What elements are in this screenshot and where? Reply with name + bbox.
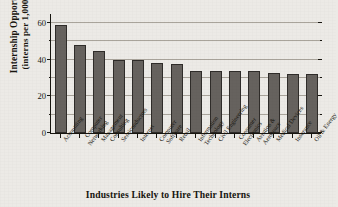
category-label-line: Internet (139, 123, 156, 142)
x-axis-title: Industries Likely to Hire Their Interns (0, 189, 336, 200)
category-label-line: Insurance (294, 120, 313, 143)
category-label: Internet (139, 123, 156, 142)
category-label: Oil & Energy (313, 112, 338, 143)
category-label-line: Oil & Energy (313, 112, 338, 143)
category-label: Insurance (294, 120, 313, 143)
